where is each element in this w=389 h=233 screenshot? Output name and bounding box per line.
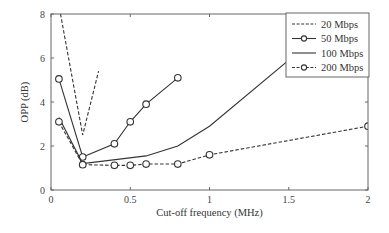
y-tick-label: 4 xyxy=(40,97,45,108)
legend: 20 Mbps50 Mbps100 Mbps200 Mbps xyxy=(286,13,369,77)
legend-marker xyxy=(301,36,306,41)
x-axis-label: Cut-off frequency (MHz) xyxy=(156,207,263,219)
y-axis-label: OPP (dB) xyxy=(19,81,31,122)
x-tick-label: 1 xyxy=(207,194,212,205)
legend-label: 50 Mbps xyxy=(321,33,358,44)
legend-marker xyxy=(301,65,306,70)
y-tick-label: 6 xyxy=(40,53,45,64)
series-20-mbps xyxy=(61,14,99,135)
data-point-marker xyxy=(79,161,86,168)
data-point-marker xyxy=(127,119,134,126)
x-tick-label: 1.5 xyxy=(283,194,296,205)
data-point-marker xyxy=(175,75,182,82)
y-tick-label: 8 xyxy=(40,9,45,20)
series-100-mbps xyxy=(59,25,321,164)
x-tick-label: 0.5 xyxy=(124,194,137,205)
data-point-marker xyxy=(127,162,134,169)
x-tick-label: 2 xyxy=(366,194,371,205)
legend-label: 100 Mbps xyxy=(321,48,363,59)
data-point-marker xyxy=(143,101,150,108)
data-point-marker xyxy=(143,161,150,168)
data-point-marker xyxy=(56,76,63,83)
data-point-marker xyxy=(56,119,63,126)
data-point-marker xyxy=(111,141,118,148)
data-point-marker xyxy=(111,162,118,169)
y-tick-label: 0 xyxy=(40,185,45,196)
data-point-marker xyxy=(175,161,182,168)
legend-label: 200 Mbps xyxy=(321,62,363,73)
y-tick-label: 2 xyxy=(40,141,45,152)
line-chart: 00.511.5202468 Cut-off frequency (MHz) O… xyxy=(0,0,389,233)
data-point-marker xyxy=(206,152,213,159)
x-tick-label: 0 xyxy=(49,194,54,205)
legend-label: 20 Mbps xyxy=(321,19,358,30)
